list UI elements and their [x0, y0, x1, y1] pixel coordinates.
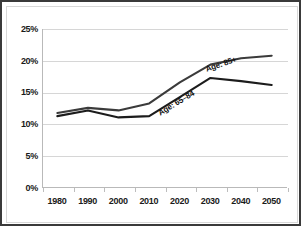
gridline-20: [43, 61, 288, 62]
y-axis-label-10: 10%: [4, 119, 38, 129]
x-axis-label-1980: 1980: [40, 196, 74, 206]
y-axis-label-5: 5%: [4, 151, 38, 161]
y-axis-label-0: 0%: [4, 183, 38, 193]
x-axis-label-2050: 2050: [254, 196, 288, 206]
y-axis-label-15: 15%: [4, 87, 38, 97]
x-axis-label-2040: 2040: [224, 196, 258, 206]
x-axis-label-2010: 2010: [132, 196, 166, 206]
x-axis-label-2000: 2000: [101, 196, 135, 206]
x-tick-5: [196, 188, 197, 192]
x-tick-8: [288, 188, 289, 192]
x-axis-label-2020: 2020: [163, 196, 197, 206]
gridline-10: [43, 124, 288, 125]
gridline-25: [43, 29, 288, 30]
x-tick-7: [257, 188, 258, 192]
gridline-15: [43, 93, 288, 94]
x-tick-2: [104, 188, 105, 192]
x-axis-label-1990: 1990: [71, 196, 105, 206]
y-axis-label-20: 20%: [4, 56, 38, 66]
x-tick-1: [74, 188, 75, 192]
chart-frame: 25% 20% 15% 10% 5% 0% Age: 85+ Age: 65–8…: [0, 0, 301, 226]
x-tick-6: [227, 188, 228, 192]
x-axis-label-2030: 2030: [193, 196, 227, 206]
gridline-5: [43, 156, 288, 157]
x-tick-3: [135, 188, 136, 192]
x-tick-4: [166, 188, 167, 192]
x-tick-0: [43, 188, 44, 192]
y-axis-label-25: 25%: [4, 24, 38, 34]
